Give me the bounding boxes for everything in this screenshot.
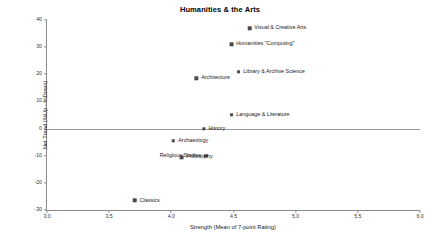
x-axis-tick: 4.5 xyxy=(230,210,237,219)
y-axis-tick-mark xyxy=(44,19,47,20)
x-axis-tick: 3.0 xyxy=(43,210,50,219)
x-axis-tick-label: 5.0 xyxy=(292,213,299,219)
data-point: Archaeology xyxy=(172,138,208,143)
y-axis-tick: 30 xyxy=(36,45,47,50)
data-point-label: Language & Literature xyxy=(233,112,289,117)
y-axis-tick: 40 xyxy=(36,17,47,22)
x-axis-tick: 5.5 xyxy=(354,210,361,219)
data-point: Humanities "Computing" xyxy=(230,42,295,47)
x-axis-tick: 6.0 xyxy=(416,210,423,219)
x-axis-tick-label: 3.0 xyxy=(43,213,50,219)
data-point: Visual & Creative Arts xyxy=(248,25,307,30)
data-point-label: Visual & Creative Arts xyxy=(251,25,306,30)
x-axis-tick-label: 4.0 xyxy=(168,213,175,219)
y-axis-tick-label: 40 xyxy=(36,17,44,22)
data-point-label: Humanities "Computing" xyxy=(233,42,294,47)
y-axis-title: Net Trend (%Up - %Down) xyxy=(42,81,48,150)
data-point: Library & Archive Science xyxy=(237,69,305,74)
y-axis-tick: 20 xyxy=(36,72,47,77)
y-axis-tick-mark xyxy=(44,182,47,183)
chart-title: Humanities & the Arts xyxy=(0,5,440,14)
y-axis-tick-label: -10 xyxy=(35,153,45,158)
data-point-label: Classics xyxy=(137,198,160,203)
data-point-label: History xyxy=(205,126,225,131)
y-axis-tick-mark xyxy=(44,47,47,48)
data-point: Philosophy xyxy=(180,154,213,159)
y-axis-tick-mark xyxy=(44,155,47,156)
data-point-label: Library & Archive Science xyxy=(240,69,304,74)
data-point: Architecture xyxy=(195,76,230,81)
data-point: Classics xyxy=(133,198,160,203)
x-axis-tick-label: 5.5 xyxy=(354,213,361,219)
data-point: History xyxy=(202,126,225,131)
x-axis-tick-label: 4.5 xyxy=(230,213,237,219)
y-axis-tick-label: 20 xyxy=(36,72,44,77)
data-point-label: Architecture xyxy=(198,76,230,81)
y-axis-tick: -20 xyxy=(35,180,48,185)
scatter-chart: Humanities & the Arts 403020100-10-20-30… xyxy=(0,0,440,236)
y-axis-tick: -10 xyxy=(35,153,48,158)
plot-area: 403020100-10-20-303.03.54.04.55.05.56.0V… xyxy=(46,20,420,211)
x-axis-tick-label: 3.5 xyxy=(106,213,113,219)
data-point-label: Philosophy xyxy=(183,154,212,159)
x-axis-tick: 4.0 xyxy=(168,210,175,219)
zero-reference-line xyxy=(47,129,420,130)
x-axis-tick-label: 6.0 xyxy=(416,213,423,219)
data-point-label: Archaeology xyxy=(175,138,208,143)
x-axis-tick: 3.5 xyxy=(106,210,113,219)
data-point: Language & Literature xyxy=(230,112,290,117)
y-axis-tick-label: -20 xyxy=(35,180,45,185)
y-axis-tick-mark xyxy=(44,74,47,75)
x-axis-tick: 5.0 xyxy=(292,210,299,219)
y-axis-tick-label: 30 xyxy=(36,45,44,50)
x-axis-title: Strength (Mean of 7-point Rating) xyxy=(46,224,420,230)
